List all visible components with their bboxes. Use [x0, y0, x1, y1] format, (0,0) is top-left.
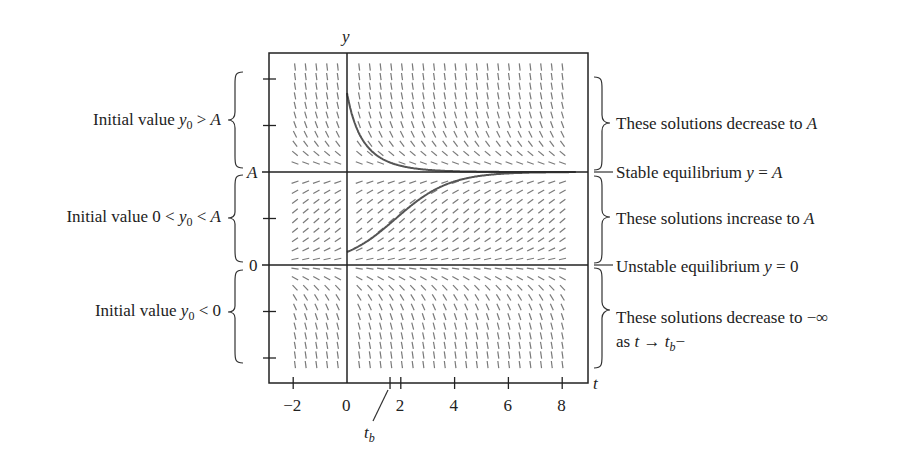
slope-segment	[335, 151, 341, 156]
slope-segment	[474, 248, 480, 251]
slope-segment	[292, 218, 297, 223]
slope-segment	[294, 332, 296, 339]
slope-segment	[378, 151, 384, 156]
slope-segment	[476, 73, 477, 80]
label-var: A	[211, 207, 221, 226]
slope-segment	[337, 92, 338, 99]
slope-segment	[433, 332, 435, 339]
slope-segment	[324, 181, 331, 183]
slope-segment	[517, 276, 523, 280]
slope-segment	[527, 162, 534, 164]
slope-segment	[391, 73, 392, 80]
slope-segment	[548, 181, 555, 183]
slope-segment	[420, 268, 427, 269]
slope-segment	[334, 268, 341, 269]
slope-segment	[434, 361, 435, 368]
slope-segment	[442, 151, 448, 156]
slope-segment	[314, 199, 320, 203]
slope-segment	[410, 238, 416, 242]
slope-segment	[358, 102, 360, 109]
slope-segment	[388, 248, 394, 251]
slope-segment	[335, 238, 341, 242]
slope-segment	[506, 228, 512, 233]
slope-segment	[495, 276, 501, 280]
x-tick-label: 8	[557, 397, 566, 414]
slope-segment	[475, 141, 479, 147]
slope-segment	[305, 102, 307, 109]
slope-segment	[454, 112, 456, 119]
slope-segment	[369, 102, 371, 109]
label-text: Initial value 0 <	[66, 207, 179, 226]
slope-segment	[380, 323, 382, 330]
slope-segment	[411, 304, 414, 311]
slope-segment	[487, 83, 488, 90]
slope-segment	[529, 131, 532, 137]
right-brace-neg-infinity	[594, 268, 610, 368]
slope-segment	[538, 228, 544, 233]
slope-segment	[410, 285, 415, 290]
slope-segment	[454, 131, 457, 137]
slope-segment	[540, 332, 542, 339]
slope-segment	[356, 218, 361, 223]
slope-segment	[380, 351, 381, 358]
right-label-unstable: Unstable equilibrium y = 0	[616, 258, 798, 275]
slope-segment	[369, 332, 371, 339]
slope-segment	[527, 268, 534, 269]
slope-segment	[538, 238, 544, 242]
slope-segment	[496, 285, 501, 290]
slope-segment	[434, 83, 435, 90]
slope-segment	[304, 141, 308, 147]
slope-segment	[559, 276, 565, 280]
slope-segment	[530, 361, 531, 368]
left-brace-between	[228, 175, 243, 262]
slope-segment	[380, 102, 382, 109]
slope-segment	[519, 102, 521, 109]
slope-segment	[421, 218, 426, 223]
slope-segment	[421, 151, 427, 156]
slope-segment	[356, 181, 363, 183]
slope-segment	[541, 83, 542, 90]
slope-segment	[409, 162, 416, 164]
slope-segment	[316, 63, 317, 70]
label-text: −	[675, 332, 685, 351]
slope-segment	[519, 342, 520, 349]
slope-segment	[367, 162, 374, 164]
slope-segment	[423, 361, 424, 368]
slope-segment	[487, 63, 488, 70]
slope-segment	[474, 209, 480, 214]
slope-segment	[303, 199, 309, 203]
slope-segment	[292, 190, 298, 194]
slope-segment	[399, 190, 405, 194]
slope-segment	[368, 294, 372, 300]
slope-segment	[315, 112, 317, 119]
slope-segment	[401, 332, 403, 339]
slope-segment	[560, 238, 566, 242]
slope-segment	[326, 304, 329, 311]
slope-segment	[463, 228, 469, 233]
slope-segment	[423, 332, 425, 339]
slope-segment	[327, 73, 328, 80]
slope-segment	[506, 181, 513, 183]
slope-segment	[452, 268, 459, 269]
slope-segment	[540, 121, 543, 128]
slope-segment	[485, 199, 491, 203]
slope-segment	[303, 285, 308, 290]
slope-segment	[455, 323, 457, 330]
slope-segment	[379, 294, 383, 300]
slope-segment	[540, 323, 542, 330]
slope-segment	[486, 294, 490, 300]
slope-segment	[359, 73, 360, 80]
slope-segment	[434, 351, 435, 358]
slope-segment	[335, 276, 341, 280]
slope-segment	[356, 209, 362, 214]
slope-segment	[324, 199, 330, 203]
right-label-neg-infinity: These solutions decrease to −∞	[616, 309, 828, 326]
slope-segment	[562, 351, 563, 358]
slope-segment	[334, 258, 341, 259]
slope-segment	[420, 162, 427, 164]
slope-segment	[315, 304, 318, 311]
slope-segment	[455, 73, 456, 80]
slope-segment	[410, 218, 415, 223]
slope-segment	[380, 73, 381, 80]
slope-segment	[551, 102, 553, 109]
